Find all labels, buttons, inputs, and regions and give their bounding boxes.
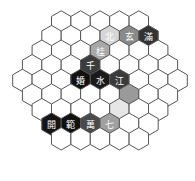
hex-shape	[129, 128, 148, 150]
hex-shape	[71, 128, 90, 150]
hex-shape	[90, 128, 109, 150]
hex-cell[interactable]	[110, 128, 129, 150]
hex-shape	[52, 128, 71, 150]
hex-cell[interactable]	[52, 128, 71, 150]
hex-cell[interactable]	[90, 128, 109, 150]
hex-game-board: 北玄滿桂千婚水江開範萬七	[0, 0, 195, 181]
hex-shape	[110, 128, 129, 150]
hex-cell[interactable]	[129, 128, 148, 150]
hex-cell[interactable]	[71, 128, 90, 150]
